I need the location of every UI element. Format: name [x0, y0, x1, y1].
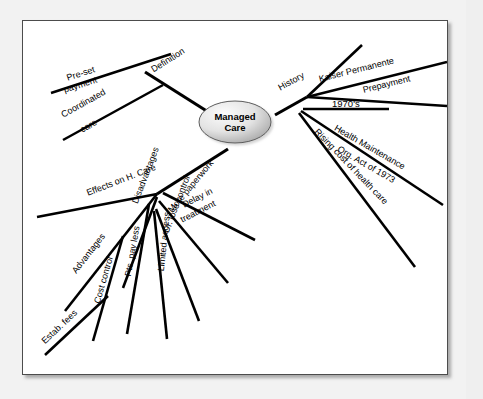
label-1970s: 1970's: [332, 99, 360, 110]
mindmap-panel: Definition Pre-set payment Coordinated c…: [22, 20, 448, 375]
center-node-label: Managed Care: [199, 101, 271, 143]
canvas-right-band: [466, 0, 483, 399]
screenshot-canvas: Definition Pre-set payment Coordinated c…: [0, 0, 483, 399]
branch-prepayment: [307, 97, 447, 106]
center-node-label-line2: Care: [224, 122, 245, 133]
branch-advantages: [65, 194, 157, 311]
center-node-label-line1: Managed: [214, 111, 255, 122]
branch-coordinated-care: [63, 85, 163, 140]
